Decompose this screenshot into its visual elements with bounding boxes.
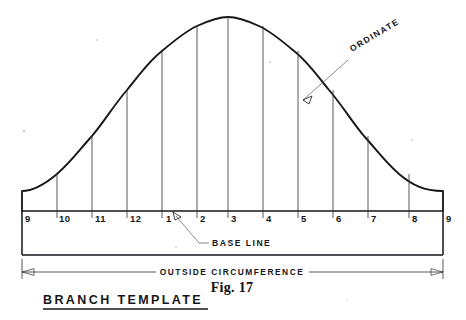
ordinate-label-6: 6 — [336, 213, 342, 224]
ordinate-label-1: 1 — [166, 213, 172, 224]
ordinate-label-9-right: 9 — [446, 213, 452, 224]
ordinate-label-4: 4 — [266, 213, 272, 224]
page-title: BRANCH TEMPLATE — [43, 293, 203, 307]
ordinate-label-9-left: 9 — [25, 213, 31, 224]
ordinate-label-7: 7 — [371, 213, 377, 224]
branch-template-figure: 9 10 11 12 1 2 3 4 5 6 7 8 9 ORDINATE BA… — [0, 0, 466, 320]
outside-circumference-label: OUTSIDE CIRCUMFERENCE — [160, 267, 305, 277]
figure-number-caption: Fig. 17 — [211, 280, 254, 295]
ordinate-label-10: 10 — [59, 213, 70, 224]
ordinate-label-2: 2 — [200, 213, 206, 224]
ordinate-label-8: 8 — [412, 213, 418, 224]
figure-title-group: BRANCH TEMPLATE — [43, 293, 208, 309]
ordinate-label-3: 3 — [231, 213, 237, 224]
ordinate-label-5: 5 — [301, 213, 307, 224]
base-line-annotation-label: BASE LINE — [212, 238, 271, 248]
ordinate-label-11: 11 — [95, 213, 106, 224]
ordinate-label-12: 12 — [130, 213, 141, 224]
